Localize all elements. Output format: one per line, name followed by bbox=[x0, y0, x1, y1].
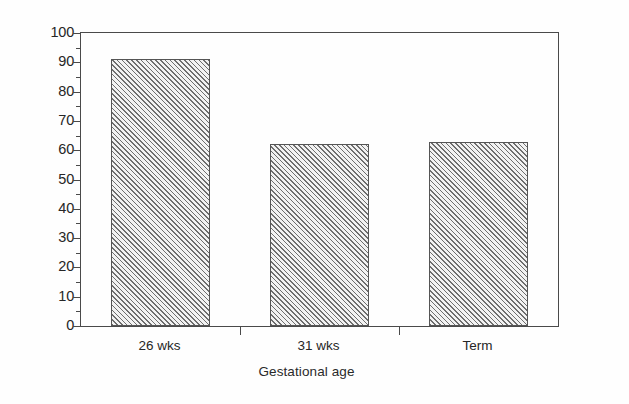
y-axis-tick-label: 10 bbox=[34, 288, 74, 304]
y-axis-tick-label: 90 bbox=[34, 53, 74, 69]
y-axis-tick-major bbox=[73, 121, 81, 122]
y-axis-tick-label: 100 bbox=[34, 24, 74, 40]
y-axis-tick-minor bbox=[76, 253, 81, 254]
x-axis-title-text: Gestational age bbox=[258, 364, 354, 379]
y-axis-tick-label: 50 bbox=[34, 171, 74, 187]
y-axis-tick-minor bbox=[76, 194, 81, 195]
bar bbox=[429, 142, 528, 326]
x-axis-tick bbox=[399, 326, 400, 335]
y-axis-tick-minor bbox=[76, 282, 81, 283]
y-axis-tick-major bbox=[73, 209, 81, 210]
y-axis-tick-minor bbox=[76, 106, 81, 107]
y-axis-tick-major bbox=[73, 267, 81, 268]
y-axis-tick-label: 60 bbox=[34, 141, 74, 157]
plot-area bbox=[80, 32, 559, 327]
y-axis-tick-major bbox=[73, 150, 81, 151]
y-axis-tick-major bbox=[73, 297, 81, 298]
y-axis-tick-label: 80 bbox=[34, 83, 74, 99]
y-axis-tick-major bbox=[73, 92, 81, 93]
y-axis-tick-minor bbox=[76, 223, 81, 224]
bar bbox=[270, 144, 369, 326]
y-axis-tick-minor bbox=[76, 77, 81, 78]
y-axis-tick-label: 70 bbox=[34, 112, 74, 128]
x-axis-title: Gestational age bbox=[0, 364, 629, 379]
y-axis-tick-label: 30 bbox=[34, 229, 74, 245]
y-axis-tick-major bbox=[73, 326, 81, 327]
x-axis-tick bbox=[240, 326, 241, 335]
y-axis-tick-labels: 0102030405060708090100 bbox=[32, 0, 74, 404]
bar-chart-figure: kcal kg-1 day-1 0102030405060708090100 2… bbox=[0, 0, 629, 404]
y-axis-tick-major bbox=[73, 180, 81, 181]
y-axis-tick-minor bbox=[76, 165, 81, 166]
x-axis-tick-label: Term bbox=[463, 338, 493, 353]
x-axis-tick-label: 31 wks bbox=[297, 338, 339, 353]
y-axis-tick-label: 20 bbox=[34, 258, 74, 274]
y-axis-tick-label: 40 bbox=[34, 200, 74, 216]
y-axis-tick-major bbox=[73, 62, 81, 63]
y-axis-tick-major bbox=[73, 238, 81, 239]
y-axis-tick-label: 0 bbox=[34, 317, 74, 333]
bar bbox=[111, 59, 210, 326]
x-axis-tick-label: 26 wks bbox=[138, 338, 180, 353]
y-axis-tick-minor bbox=[76, 311, 81, 312]
y-axis-tick-minor bbox=[76, 48, 81, 49]
y-axis-tick-major bbox=[73, 33, 81, 34]
y-axis-tick-minor bbox=[76, 136, 81, 137]
